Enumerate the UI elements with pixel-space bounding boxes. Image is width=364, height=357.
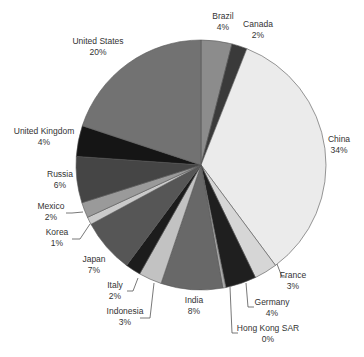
slice-label-hong-kong-sar: Hong Kong SAR0% (237, 323, 299, 344)
slice-label-canada: Canada2% (243, 19, 273, 40)
slice-label-mexico: Mexico2% (38, 201, 65, 222)
slice-label-france: France3% (280, 270, 307, 291)
slice-label-brazil: Brazil4% (212, 11, 233, 32)
pie-slices (76, 40, 326, 290)
leader-line-mexico (66, 212, 83, 213)
slice-label-china: China34% (328, 134, 350, 155)
slice-label-korea: Korea1% (46, 227, 69, 248)
slice-label-indonesia: Indonesia3% (107, 306, 144, 327)
slice-label-russia: Russia6% (47, 169, 73, 190)
slice-label-india: India8% (185, 295, 204, 316)
slice-label-united-kingdom: United Kingdom4% (14, 126, 74, 147)
slice-label-germany: Germany4% (255, 297, 291, 318)
pie-chart: Brazil4%Canada2%China34%France3%Germany4… (0, 0, 364, 357)
leader-line-korea (72, 224, 90, 239)
leader-line-italy (127, 278, 138, 291)
leader-line-germany (246, 283, 254, 307)
slice-label-united-states: United States20% (72, 36, 123, 57)
slice-label-japan: Japan7% (82, 254, 105, 275)
slice-label-italy: Italy2% (107, 280, 123, 301)
